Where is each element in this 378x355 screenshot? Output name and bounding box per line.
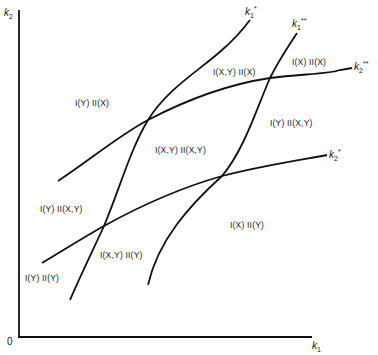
region-label-y-x: I(Y) II(X) [75,98,109,108]
region-label-y-xy-left: I(Y) II(X,Y) [40,204,83,214]
x-axis-label-text: k1 [312,340,321,351]
diagram-canvas [0,0,378,355]
curve-label-k1-star-star-text: k1** [292,18,306,29]
origin-label: 0 [7,336,13,347]
curve-label-k2-star: k2* [329,148,341,162]
curve-k1-star [70,20,250,300]
curve-label-k2-star-star: k2** [354,60,368,74]
curve-label-k1-star-text: k1* [245,6,257,17]
region-label-y-y: I(Y) II(Y) [25,273,59,283]
y-axis-label-text: k2 [4,7,13,18]
region-label-x-x: I(X) II(X) [292,57,326,67]
curve-k2-star [42,155,327,263]
x-axis-label: k1 [312,340,321,353]
curve-label-k1-star-star: k1** [292,17,306,31]
curve-label-k2-star-star-text: k2** [354,61,368,72]
region-label-xy-xy: I(X,Y) II(X,Y) [155,145,206,155]
region-label-xy-y: I(X,Y) II(Y) [100,250,143,260]
curve-label-k1-star: k1* [245,5,257,19]
region-label-xy-x: I(X,Y) II(X) [213,67,256,77]
region-label-y-xy-right: I(Y) II(X,Y) [270,118,313,128]
y-axis-label: k2 [4,7,13,20]
curve-label-k2-star-text: k2* [329,149,341,160]
region-label-x-y: I(X) II(Y) [230,220,264,230]
